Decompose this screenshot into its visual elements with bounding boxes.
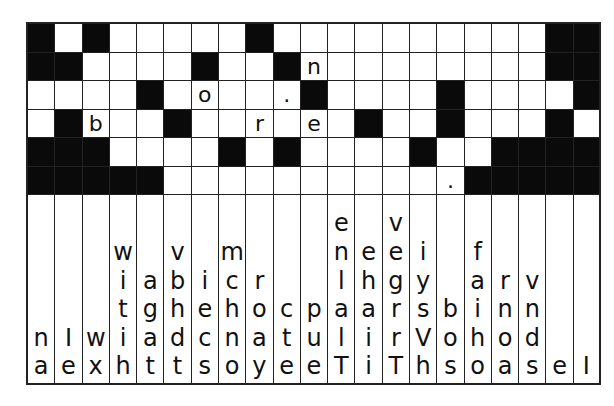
- grid-cell[interactable]: [301, 167, 328, 196]
- column-letter[interactable]: a: [498, 352, 513, 381]
- grid-cell[interactable]: [355, 138, 382, 167]
- column-letter[interactable]: T: [334, 352, 349, 381]
- grid-cell[interactable]: [192, 167, 219, 196]
- grid-cell[interactable]: [465, 24, 492, 53]
- grid-cell[interactable]: [355, 167, 382, 196]
- grid-cell[interactable]: .: [437, 167, 464, 196]
- grid-cell[interactable]: [465, 110, 492, 139]
- grid-cell[interactable]: [301, 24, 328, 53]
- column-letter[interactable]: r: [391, 324, 401, 353]
- grid-cell[interactable]: [328, 110, 355, 139]
- grid-cell[interactable]: n: [301, 53, 328, 82]
- column-letter[interactable]: e: [61, 352, 76, 381]
- grid-cell[interactable]: [328, 138, 355, 167]
- column-letter[interactable]: y: [416, 267, 430, 296]
- grid-cell[interactable]: [164, 81, 191, 110]
- grid-cell[interactable]: [355, 53, 382, 82]
- grid-cell[interactable]: [465, 53, 492, 82]
- grid-cell[interactable]: [110, 53, 137, 82]
- column-letter[interactable]: a: [252, 324, 267, 353]
- column-letter[interactable]: o: [498, 324, 513, 353]
- grid-cell[interactable]: [83, 81, 110, 110]
- column-letter[interactable]: I: [65, 324, 72, 353]
- column-letter[interactable]: a: [143, 267, 158, 296]
- grid-cell[interactable]: [519, 81, 546, 110]
- grid-cell[interactable]: [192, 110, 219, 139]
- column-letter[interactable]: p: [306, 295, 321, 324]
- grid-cell[interactable]: [110, 138, 137, 167]
- grid-cell[interactable]: [246, 53, 273, 82]
- grid-cell[interactable]: b: [83, 110, 110, 139]
- grid-cell[interactable]: [519, 110, 546, 139]
- grid-cell[interactable]: [137, 110, 164, 139]
- grid-cell[interactable]: [383, 24, 410, 53]
- grid-cell[interactable]: [383, 138, 410, 167]
- column-letter[interactable]: e: [197, 295, 212, 324]
- grid-cell[interactable]: [55, 81, 82, 110]
- column-letter[interactable]: r: [254, 267, 264, 296]
- column-letter[interactable]: e: [279, 352, 294, 381]
- column-letter[interactable]: a: [34, 352, 49, 381]
- column-letter[interactable]: n: [334, 238, 349, 267]
- column-letter[interactable]: h: [470, 324, 485, 353]
- grid-cell[interactable]: [137, 138, 164, 167]
- grid-cell[interactable]: [192, 138, 219, 167]
- column-letter[interactable]: V: [415, 324, 431, 353]
- column-letter[interactable]: l: [338, 267, 345, 296]
- grid-cell[interactable]: [492, 53, 519, 82]
- column-letter[interactable]: i: [365, 352, 372, 381]
- grid-cell[interactable]: [492, 110, 519, 139]
- column-letter[interactable]: r: [391, 295, 401, 324]
- column-letter[interactable]: n: [525, 295, 540, 324]
- grid-cell[interactable]: .: [274, 81, 301, 110]
- column-letter[interactable]: T: [389, 352, 404, 381]
- column-letter[interactable]: e: [361, 238, 376, 267]
- column-letter[interactable]: a: [470, 267, 485, 296]
- grid-cell[interactable]: [274, 167, 301, 196]
- grid-cell[interactable]: [383, 81, 410, 110]
- column-letter[interactable]: v: [389, 209, 403, 238]
- grid-cell[interactable]: [410, 81, 437, 110]
- column-letter[interactable]: i: [120, 324, 127, 353]
- column-letter[interactable]: i: [420, 238, 427, 267]
- grid-cell[interactable]: [465, 81, 492, 110]
- column-letter[interactable]: o: [252, 295, 267, 324]
- grid-cell[interactable]: [83, 53, 110, 82]
- grid-cell[interactable]: [274, 24, 301, 53]
- column-letter[interactable]: i: [202, 267, 209, 296]
- grid-cell[interactable]: [164, 167, 191, 196]
- column-letter[interactable]: t: [118, 295, 127, 324]
- grid-cell[interactable]: [437, 138, 464, 167]
- grid-cell[interactable]: [328, 24, 355, 53]
- grid-cell[interactable]: [28, 81, 55, 110]
- column-letter[interactable]: w: [113, 238, 133, 267]
- grid-cell[interactable]: [110, 110, 137, 139]
- column-letter[interactable]: s: [199, 352, 212, 381]
- column-letter[interactable]: m: [220, 238, 243, 267]
- column-letter[interactable]: c: [226, 267, 239, 296]
- grid-cell[interactable]: [492, 81, 519, 110]
- column-letter[interactable]: c: [198, 324, 211, 353]
- column-letter[interactable]: n: [34, 324, 49, 353]
- column-letter[interactable]: y: [252, 352, 266, 381]
- grid-cell[interactable]: [355, 24, 382, 53]
- grid-cell[interactable]: [164, 138, 191, 167]
- grid-cell[interactable]: [301, 138, 328, 167]
- grid-cell[interactable]: [137, 24, 164, 53]
- grid-cell[interactable]: [192, 24, 219, 53]
- column-letter[interactable]: a: [361, 295, 376, 324]
- grid-cell[interactable]: [328, 167, 355, 196]
- grid-cell[interactable]: [410, 53, 437, 82]
- column-letter[interactable]: s: [417, 295, 430, 324]
- grid-cell[interactable]: e: [301, 110, 328, 139]
- column-letter[interactable]: t: [282, 324, 291, 353]
- grid-cell[interactable]: [164, 53, 191, 82]
- column-letter[interactable]: a: [143, 324, 158, 353]
- column-letter[interactable]: i: [474, 295, 481, 324]
- grid-cell[interactable]: [219, 24, 246, 53]
- grid-cell[interactable]: [410, 110, 437, 139]
- grid-cell[interactable]: [219, 53, 246, 82]
- grid-cell[interactable]: [274, 110, 301, 139]
- grid-cell[interactable]: [437, 53, 464, 82]
- column-letter[interactable]: b: [443, 295, 458, 324]
